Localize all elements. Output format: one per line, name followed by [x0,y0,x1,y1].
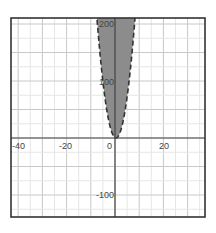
x-tick-label: -20 [59,141,72,151]
x-tick-label: 20 [159,141,169,151]
y-tick-label: 100 [99,77,114,87]
x-tick-label: 0 [107,141,112,151]
y-tick-label: 200 [99,19,114,29]
graph-plot: -40 -20 0 20 200 100 -100 [0,0,216,233]
x-tick-label: -40 [12,141,25,151]
y-tick-label: -100 [96,190,114,200]
